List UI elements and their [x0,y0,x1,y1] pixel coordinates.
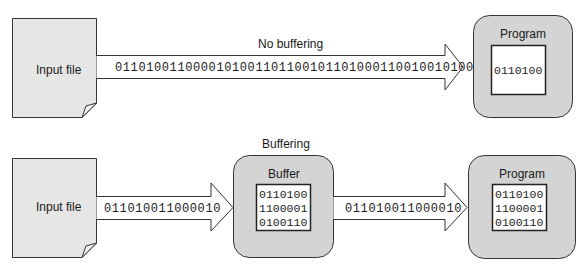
program-memory-line: 0110100 [495,188,543,201]
stream-arrow-out: 011010011000010 [334,183,468,231]
program-memory-line: 0100110 [495,216,543,229]
buffer-line: 0110100 [259,188,307,201]
bit-stream-out: 011010011000010 [345,202,462,216]
stream-arrow-in: 011010011000010 [97,183,234,231]
bit-stream: 0110100110000101001101100101101000110010… [115,61,474,75]
program-memory-line: 1100001 [495,202,543,215]
stream-arrow: No buffering 011010011000010100110110010… [97,37,474,90]
buffer-box: Buffer 0110100 1100001 0100110 [234,156,334,258]
buffer-line: 1100001 [259,202,307,215]
no-buffering-row: Input file No buffering 0110100110000101… [13,16,573,118]
buffer-line: 0100110 [259,216,307,229]
program-memory-line: 0110100 [494,64,542,77]
bit-stream-in: 011010011000010 [104,202,221,216]
program-title: Program [500,27,546,41]
buffer-title: Buffer [268,167,300,181]
program-box: Program 0110100 [474,16,573,118]
program-title: Program [499,167,545,181]
section-label-no-buffering: No buffering [258,37,323,51]
buffering-diagram: Input file No buffering 0110100110000101… [0,0,588,271]
input-file-document-icon: Input file [13,19,97,118]
program-box: Program 0110100 1100001 0100110 [469,156,576,259]
section-label-buffering: Buffering [262,137,310,151]
buffering-row: Input file 011010011000010 Buffering Buf… [13,137,576,259]
input-file-document-icon: Input file [13,159,97,258]
input-file-label: Input file [36,200,82,214]
input-file-label: Input file [36,63,82,77]
